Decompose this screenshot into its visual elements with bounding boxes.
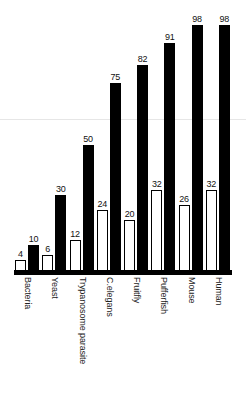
category-label-mouse: Mouse xyxy=(178,277,204,393)
category-label-text: Bacteria xyxy=(23,277,32,309)
category-label-yeast: Yeast xyxy=(41,277,67,393)
bar-open-bar: 20 xyxy=(124,8,135,270)
x-axis-baseline xyxy=(14,270,232,275)
category-label-text: Yeast xyxy=(50,277,59,299)
category-label-fruitfly: Fruitfly xyxy=(123,277,149,393)
x-axis-category-labels: BacteriaYeastTrypanosome parasiteC.elega… xyxy=(14,277,232,395)
category-label-text: Pufferfish xyxy=(159,277,168,314)
bar-filled-bar: 91 xyxy=(164,8,175,270)
category-label-bacteria: Bacteria xyxy=(14,277,40,393)
bar-group: 1250 xyxy=(69,8,95,270)
bar-rect xyxy=(110,83,121,270)
bar-open-bar: 6 xyxy=(42,8,53,270)
bar-group: 2698 xyxy=(178,8,204,270)
bar-rect xyxy=(179,205,190,270)
category-label-human: Human xyxy=(205,277,231,393)
category-label-pufferfish: Pufferfish xyxy=(150,277,176,393)
bar-filled-bar: 98 xyxy=(219,8,230,270)
bar-group: 3298 xyxy=(205,8,231,270)
bar-rect xyxy=(219,25,230,270)
bar-open-bar: 32 xyxy=(206,8,217,270)
bar-open-bar: 26 xyxy=(179,8,190,270)
category-label-text: Mouse xyxy=(186,277,195,304)
bar-group: 2475 xyxy=(96,8,122,270)
category-label-text: C.elegans xyxy=(104,277,113,317)
bar-rect xyxy=(192,25,203,270)
category-label-trypanosome-parasite: Trypanosome parasite xyxy=(69,277,95,393)
bar-rect xyxy=(137,65,148,270)
bar-value-label: 98 xyxy=(213,14,236,24)
bar-chart: 410630125024752082329126983298 BacteriaY… xyxy=(0,0,246,397)
bar-filled-bar: 98 xyxy=(192,8,203,270)
category-label-text: Trypanosome parasite xyxy=(77,277,86,364)
bar-rect xyxy=(42,255,53,270)
category-label-c-elegans: C.elegans xyxy=(96,277,122,393)
bar-group: 410 xyxy=(14,8,40,270)
bar-rect xyxy=(97,210,108,270)
bar-rect xyxy=(124,220,135,270)
bar-rect xyxy=(151,190,162,270)
bar-rect xyxy=(206,190,217,270)
bar-open-bar: 24 xyxy=(97,8,108,270)
bar-filled-bar: 75 xyxy=(110,8,121,270)
bar-filled-bar: 10 xyxy=(28,8,39,270)
bar-open-bar: 4 xyxy=(15,8,26,270)
category-label-text: Human xyxy=(213,277,222,306)
plot-area: 410630125024752082329126983298 xyxy=(14,8,232,270)
bar-open-bar: 32 xyxy=(151,8,162,270)
bar-group: 3291 xyxy=(150,8,176,270)
bar-rect xyxy=(70,240,81,270)
category-label-text: Fruitfly xyxy=(132,277,141,303)
bar-group: 2082 xyxy=(123,8,149,270)
bar-rect xyxy=(164,43,175,270)
bar-filled-bar: 50 xyxy=(83,8,94,270)
bar-rect xyxy=(15,260,26,270)
bar-filled-bar: 82 xyxy=(137,8,148,270)
